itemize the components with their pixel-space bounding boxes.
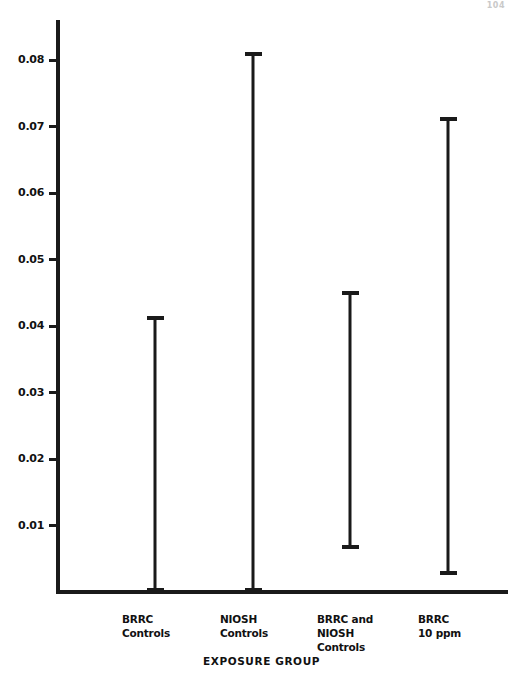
range-bar-upper-cap bbox=[342, 291, 359, 295]
y-tick-label: 0.08 bbox=[0, 53, 44, 66]
x-category-label: BRRC 10 ppm bbox=[418, 612, 523, 640]
x-axis-line bbox=[56, 590, 508, 594]
y-tick-0.07 bbox=[49, 125, 58, 128]
y-tick-label: 0.06 bbox=[0, 186, 44, 199]
x-category-label: BRRC and NIOSH Controls bbox=[317, 612, 427, 654]
y-tick-label: 0.02 bbox=[0, 452, 44, 465]
range-bar-lower-cap bbox=[440, 571, 457, 575]
x-axis-title: EXPOSURE GROUP bbox=[0, 655, 523, 667]
range-bar bbox=[349, 291, 352, 548]
y-tick-label: 0.05 bbox=[0, 253, 44, 266]
range-bar-upper-cap bbox=[245, 52, 262, 56]
range-bar-upper-cap bbox=[440, 117, 457, 121]
y-axis-line bbox=[56, 20, 60, 594]
y-tick-label: 0.01 bbox=[0, 519, 44, 532]
y-tick-label: 0.03 bbox=[0, 386, 44, 399]
x-category-label: BRRC Controls bbox=[122, 612, 232, 640]
y-tick-0.06 bbox=[49, 192, 58, 195]
y-tick-0.02 bbox=[49, 458, 58, 461]
y-tick-0.05 bbox=[49, 258, 58, 261]
y-tick-0.03 bbox=[49, 391, 58, 394]
y-tick-0.04 bbox=[49, 325, 58, 328]
page-number: 104 bbox=[487, 1, 505, 10]
y-tick-label: 0.04 bbox=[0, 319, 44, 332]
y-tick-0.08 bbox=[49, 59, 58, 62]
y-tick-0.01 bbox=[49, 524, 58, 527]
x-category-label: NIOSH Controls bbox=[220, 612, 330, 640]
y-tick-label: 0.07 bbox=[0, 120, 44, 133]
range-bar-lower-cap bbox=[342, 545, 359, 549]
range-bar-lower-cap bbox=[245, 588, 262, 592]
range-bar bbox=[447, 117, 450, 576]
range-bar bbox=[252, 52, 255, 592]
range-bar-lower-cap bbox=[147, 588, 164, 592]
range-bar bbox=[154, 316, 157, 592]
chart-figure: 104 0.010.020.030.040.050.060.070.08 BRR… bbox=[0, 0, 523, 684]
range-bar-upper-cap bbox=[147, 316, 164, 320]
